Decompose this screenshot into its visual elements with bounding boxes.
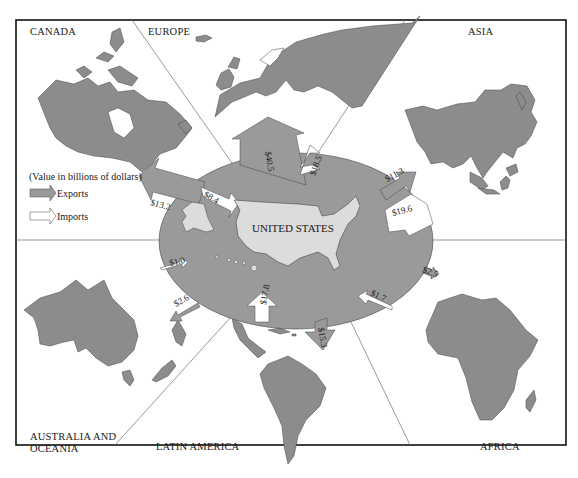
legend-exports-label: Exports <box>57 188 88 199</box>
legend-note: (Value in billions of dollars) <box>29 171 142 183</box>
region-label-australia-line1: AUSTRALIA AND <box>30 431 117 442</box>
region-label-latam: LATIN AMERICA <box>156 441 240 452</box>
region-label-canada: CANADA <box>30 26 76 37</box>
us-label: UNITED STATES <box>252 222 334 234</box>
legend-imports-label: Imports <box>57 211 88 222</box>
region-label-asia: ASIA <box>468 26 494 37</box>
region-label-australia-line2: OCEANIA <box>30 443 79 454</box>
region-label-europe: EUROPE <box>148 26 190 37</box>
trade-map: UNITED STATES CANADA EUROPE ASIA AFRICA … <box>0 0 578 478</box>
region-label-africa: AFRICA <box>480 441 520 452</box>
